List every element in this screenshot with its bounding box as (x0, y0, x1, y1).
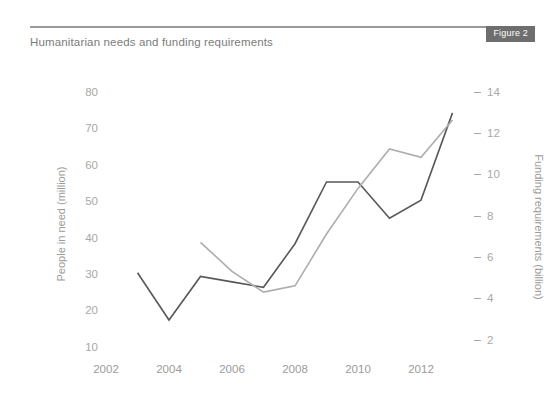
series-line-funding-requirements (201, 120, 453, 292)
chart-lines-svg (0, 0, 547, 410)
figure-container: Figure 2 Humanitarian needs and funding … (0, 0, 547, 410)
chart-plot-area: People in need (million) Funding require… (0, 0, 547, 410)
series-line-people-in-need (138, 113, 453, 320)
